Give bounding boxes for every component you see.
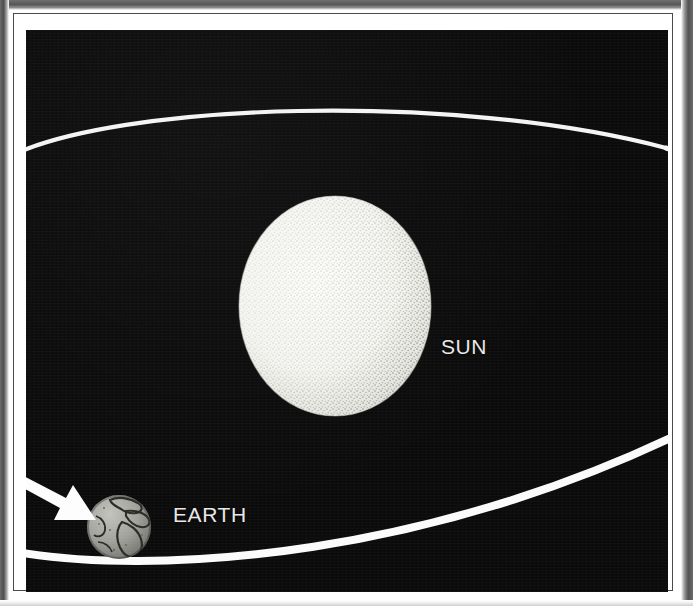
- earth-label: EARTH: [173, 503, 247, 527]
- direction-arrow: [26, 474, 96, 520]
- frame-edge-right: [681, 0, 693, 606]
- earth-body: [87, 495, 151, 559]
- diagram-panel: SUN EARTH: [26, 30, 668, 592]
- frame-edge-bottom: [0, 600, 693, 606]
- orbit-path-back: [26, 111, 666, 158]
- illustration-page: SUN EARTH: [0, 0, 693, 606]
- orbit-path-right-back: [666, 148, 668, 270]
- frame-edge-top: [0, 0, 693, 10]
- sun-stipple-rim: [239, 196, 431, 416]
- frame-edge-left: [0, 0, 9, 606]
- sun-label: SUN: [441, 335, 487, 359]
- sun-body: [239, 196, 431, 416]
- orbit-scene: [26, 30, 668, 592]
